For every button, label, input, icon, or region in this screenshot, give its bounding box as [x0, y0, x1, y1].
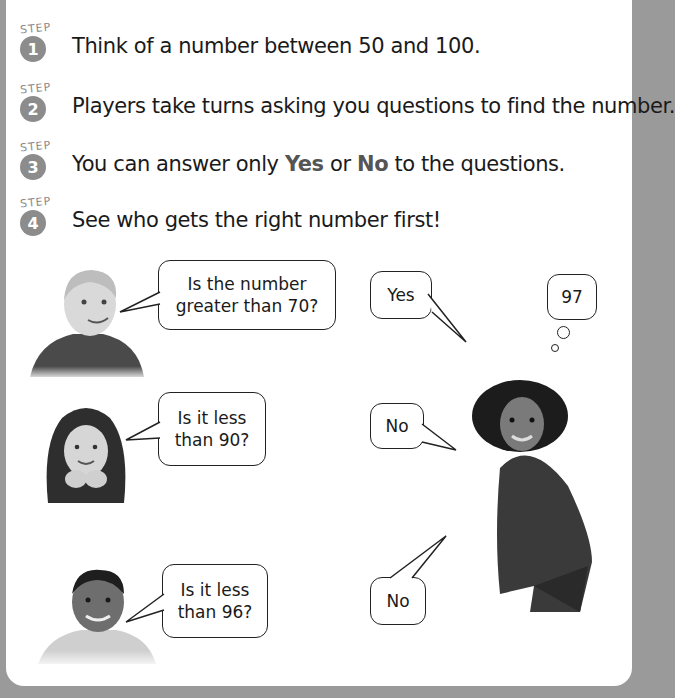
answer-text: No: [385, 415, 408, 437]
question-bubble-3: Is it less than 96?: [162, 564, 268, 638]
step-number-badge: 1: [20, 36, 46, 62]
step-text: You can answer only Yes or No to the que…: [72, 152, 565, 176]
speech-tail: [420, 422, 460, 452]
girl-long-hair-photo: [40, 403, 132, 505]
step-number-badge: 2: [20, 96, 46, 122]
step-4: STEP 4 See who gets the right number fir…: [18, 196, 628, 242]
speech-tail: [124, 420, 162, 446]
question-line: greater than 70?: [176, 295, 319, 317]
step-label: STEP: [19, 194, 51, 210]
speech-tail: [124, 592, 166, 626]
thought-dot-large: [557, 326, 570, 339]
step-text: Players take turns asking you questions …: [72, 94, 675, 118]
boy-blond-photo: [28, 262, 146, 380]
answer-text: Yes: [387, 284, 414, 306]
step-2: STEP 2 Players take turns asking you que…: [18, 82, 628, 128]
question-bubble-2: Is it less than 90?: [158, 392, 266, 466]
thought-bubble: 97: [547, 274, 597, 320]
no-emphasis: No: [357, 152, 388, 176]
girl-curly-hair-photo: [460, 376, 600, 614]
question-line: than 96?: [178, 601, 253, 623]
question-line: Is it less: [181, 579, 250, 601]
question-bubble-1: Is the number greater than 70?: [158, 260, 336, 330]
answer-bubble-yes: Yes: [370, 271, 432, 319]
step-text: Think of a number between 50 and 100.: [72, 34, 480, 58]
question-line: than 90?: [175, 429, 250, 451]
speech-tail: [426, 292, 470, 344]
thought-dot-small: [551, 344, 559, 352]
step-label: STEP: [19, 80, 51, 96]
step-3: STEP 3 You can answer only Yes or No to …: [18, 140, 628, 186]
answer-bubble-no-1: No: [370, 403, 424, 449]
speech-tail: [118, 290, 162, 316]
answer-bubble-no-2: No: [370, 577, 426, 625]
speech-tail: [386, 534, 448, 580]
yes-emphasis: Yes: [285, 152, 324, 176]
question-line: Is it less: [178, 407, 247, 429]
step-text: See who gets the right number first!: [72, 208, 441, 232]
step-label: STEP: [19, 138, 51, 154]
step-number-badge: 3: [20, 154, 46, 180]
question-line: Is the number: [188, 273, 307, 295]
step-1: STEP 1 Think of a number between 50 and …: [18, 22, 628, 68]
thought-number: 97: [561, 286, 583, 308]
step-label: STEP: [19, 20, 51, 36]
answer-text: No: [386, 590, 409, 612]
step-number-badge: 4: [20, 210, 46, 236]
